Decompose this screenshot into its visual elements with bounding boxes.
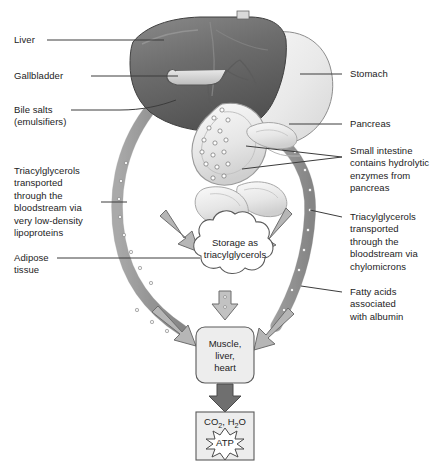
falciform-tab <box>237 11 249 19</box>
label-bile-salts: Bile salts (emulsifiers) <box>14 104 66 129</box>
tissues-node-label: Muscle, liver, heart <box>196 338 254 375</box>
label-fatty-acids: Fatty acids associated with albumin <box>350 286 403 323</box>
products-formula: CO2, H2O <box>196 416 254 430</box>
arrow-fatty-acids-right <box>254 308 294 350</box>
label-stomach: Stomach <box>350 68 388 80</box>
atp-label: ATP <box>196 437 254 448</box>
label-small-intestine: Small intestine contains hydrolytic enzy… <box>350 145 429 195</box>
label-chylomicrons: Triacylglycerols transported through the… <box>350 211 418 273</box>
arrow-tissues-to-products <box>209 384 241 412</box>
co2-h2o-text: CO2, H2O <box>204 416 246 427</box>
arrow-fatty-acids-left <box>152 306 196 346</box>
arrow-storage-to-tissues <box>212 291 238 320</box>
label-vldl: Triacylglycerols transported through the… <box>14 165 83 239</box>
label-gallbladder: Gallbladder <box>14 70 63 82</box>
label-liver: Liver <box>14 34 35 46</box>
figure-canvas: Liver Gallbladder Bile salts (emulsifier… <box>0 0 448 465</box>
storage-node-label: Storage as triacylglycerols <box>186 237 284 261</box>
label-adipose-tissue: Adipose tissue <box>14 252 49 277</box>
label-pancreas: Pancreas <box>350 118 391 130</box>
chylomicron-vessel <box>262 128 312 326</box>
leader-fatty-acids <box>301 286 342 292</box>
